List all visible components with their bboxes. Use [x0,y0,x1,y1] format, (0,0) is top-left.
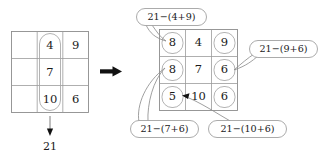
callout-bottom-left-label: 21−(7+6) [141,123,189,134]
diagram-canvas: 4 9 7 10 6 21 [0,0,321,154]
right-grid-cell-r1c0: 8 [169,62,176,76]
right-grid-cell-r0c1: 4 [195,35,202,49]
right-grid-cell-r0c2: 9 [221,35,228,49]
right-grid-cell-r1c2: 6 [221,62,228,76]
right-grid-cell-r2c0: 5 [169,89,176,103]
left-grid-sum-arrow [47,116,53,136]
right-grid-cell-r0c0: 8 [169,35,176,49]
callout-bottom-right[interactable]: 21−(10+6) [209,121,287,138]
right-arrow-icon [100,66,122,76]
left-grid-cell-r2c1: 10 [43,92,58,106]
left-grid: 4 9 7 10 6 [12,32,89,113]
callout-right[interactable]: 21−(9+6) [250,41,318,58]
left-grid-cell-r0c2: 9 [72,38,79,52]
left-grid-cell-r0c1: 4 [46,38,53,52]
left-grid-sum-label: 21 [43,140,57,153]
right-grid-cell-r1c1: 7 [195,62,202,76]
callout-top-left-label: 21−(4+9) [148,11,196,22]
right-grid: 8 4 9 8 7 6 5 10 6 [160,30,238,111]
right-grid-cell-r2c1: 10 [191,89,206,103]
callout-bottom-right-label: 21−(10+6) [220,123,274,134]
left-grid-cell-r2c2: 6 [72,92,79,106]
callout-right-label: 21−(9+6) [260,43,308,54]
callout-top-left[interactable]: 21−(4+9) [137,9,207,26]
left-grid-cell-r1c1: 7 [46,65,53,79]
right-grid-cell-r2c2: 6 [221,89,228,103]
callout-bottom-left[interactable]: 21−(7+6) [131,121,199,138]
